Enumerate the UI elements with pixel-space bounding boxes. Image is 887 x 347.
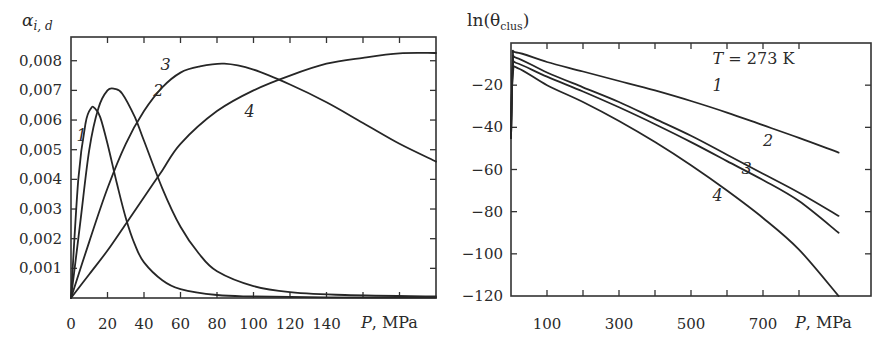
x-tick-label: 140 [312,315,341,333]
x-tick-label: 40 [134,315,153,333]
x-tick-label: 0 [66,315,76,333]
curve-label-1: 1 [76,126,86,145]
curve-1 [71,107,436,298]
y-tick-label: 0,005 [19,141,62,159]
x-tick-label: 100 [239,315,268,333]
left-y-axis-title: αi, d [22,10,53,33]
curve-label-3: 3 [160,55,170,74]
curve-4 [511,66,839,296]
x-tick-label: 100 [533,315,562,333]
left-tick-labels: 0,0010,0020,0030,0040,0050,0060,0070,008… [19,52,341,333]
x-tick-label: 60 [171,315,190,333]
curve-label-4: 4 [243,102,254,121]
curve-label-1: 1 [713,76,723,95]
curve-label-4: 4 [712,186,723,205]
x-tick-label: 700 [749,315,778,333]
y-tick-label: 0,001 [19,259,62,277]
left-curve-labels: 1234 [76,55,254,145]
x-tick-label: 300 [605,315,634,333]
y-tick-label: −60 [471,161,503,179]
y-tick-label: 0,002 [19,230,62,248]
curve-3 [511,60,839,232]
right-chart: −20−40−60−80−100−120100300500700 T = 273… [462,10,871,333]
y-tick-label: −100 [462,245,503,263]
curve-label-2: 2 [762,131,773,150]
left-axis-ticks [71,37,436,298]
figure: 0,0010,0020,0030,0040,0050,0060,0070,008… [0,0,887,347]
curve-label-3: 3 [741,159,751,178]
x-tick-label: 80 [207,315,226,333]
left-plot-frame [71,37,436,298]
y-tick-label: −40 [471,118,503,136]
y-tick-label: −120 [462,287,503,305]
curve-2 [511,55,839,216]
y-tick-label: 0,006 [19,111,62,129]
left-x-axis-title: P, MPa [360,313,418,332]
right-y-axis-title: ln(θclus) [467,10,529,33]
y-tick-label: 0,007 [19,81,62,99]
y-tick-label: 0,003 [19,200,62,218]
left-chart: 0,0010,0020,0030,0040,0050,0060,0070,008… [19,10,436,333]
x-tick-label: 20 [98,315,117,333]
y-tick-label: −20 [471,76,503,94]
right-curves [511,51,839,296]
left-curves [71,53,436,298]
x-tick-label: 500 [677,315,706,333]
x-tick-label: 120 [276,315,305,333]
right-x-axis-title: P, MPa [794,313,852,332]
y-tick-label: −80 [471,203,503,221]
curve-label-2: 2 [152,81,163,100]
y-tick-label: 0,004 [19,170,62,188]
temperature-annotation: T = 273 K [713,49,796,68]
curve-4 [71,53,436,298]
right-curve-labels: T = 273 K1234 [712,49,796,205]
y-tick-label: 0,008 [19,52,62,70]
